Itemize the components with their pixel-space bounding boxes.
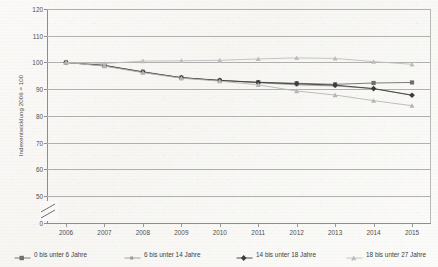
y-tick-label-110: 110 (33, 32, 43, 39)
legend-item-0[interactable]: 0 bis unter 6 Jahre (14, 248, 87, 260)
legend-marker-icon (346, 249, 363, 259)
series-line (66, 62, 412, 105)
legend-marker-icon (14, 249, 31, 259)
plot-area: 05060708090100110120 2006200720082009201… (47, 9, 431, 224)
legend-label: 14 bis unter 18 Jahre (256, 251, 316, 258)
data-point-marker (371, 86, 377, 92)
x-tick-label-2006: 2006 (59, 229, 73, 236)
series-line (66, 62, 412, 95)
series-3 (64, 55, 415, 66)
y-axis-title: Indexentwicklung 2006 = 100 (17, 46, 24, 186)
series-line (66, 58, 412, 64)
x-tick-mark-2006 (66, 224, 67, 227)
x-tick-mark-2015 (412, 224, 413, 227)
legend-marker-icon (236, 249, 253, 259)
x-tick-mark-2013 (335, 224, 336, 227)
data-point-marker (371, 81, 375, 85)
x-tick-mark-2010 (220, 224, 221, 227)
x-tick-mark-2008 (143, 224, 144, 227)
data-point-marker (409, 92, 415, 98)
chart-legend: 0 bis unter 6 Jahre6 bis unter 14 Jahre1… (0, 248, 438, 262)
x-tick-mark-2012 (297, 224, 298, 227)
data-point-marker (410, 80, 414, 84)
y-tick-label-100: 100 (32, 59, 43, 66)
x-tick-label-2015: 2015 (405, 229, 419, 236)
x-tick-label-2010: 2010 (213, 229, 227, 236)
series-layer (47, 9, 431, 224)
legend-marker-icon (124, 249, 141, 259)
legend-item-3[interactable]: 18 bis unter 27 Jahre (346, 248, 426, 260)
x-tick-mark-2011 (258, 224, 259, 227)
series-2 (63, 60, 415, 98)
legend-label: 0 bis unter 6 Jahre (34, 251, 87, 258)
legend-label: 6 bis unter 14 Jahre (144, 251, 201, 258)
x-tick-label-2012: 2012 (290, 229, 304, 236)
x-tick-mark-2007 (104, 224, 105, 227)
y-tick-label-70: 70 (36, 139, 43, 146)
x-tick-mark-2014 (374, 224, 375, 227)
x-tick-label-2009: 2009 (174, 229, 188, 236)
legend-label: 18 bis unter 27 Jahre (366, 251, 426, 258)
y-tick-label-120: 120 (32, 6, 43, 13)
x-tick-label-2014: 2014 (366, 229, 380, 236)
chart-figure: Indexentwicklung 2006 = 100 050607080901… (0, 0, 438, 267)
y-tick-label-50: 50 (36, 193, 43, 200)
x-tick-label-2007: 2007 (97, 229, 111, 236)
y-tick-label-80: 80 (36, 112, 43, 119)
x-tick-mark-2009 (181, 224, 182, 227)
series-1 (65, 61, 414, 97)
y-tick-label-90: 90 (36, 86, 43, 93)
legend-item-2[interactable]: 14 bis unter 18 Jahre (236, 248, 316, 260)
x-tick-label-2013: 2013 (328, 229, 342, 236)
x-tick-label-2011: 2011 (251, 229, 265, 236)
y-tick-label-60: 60 (36, 166, 43, 173)
legend-item-1[interactable]: 6 bis unter 14 Jahre (124, 248, 201, 260)
x-tick-label-2008: 2008 (136, 229, 150, 236)
series-0 (64, 60, 414, 86)
